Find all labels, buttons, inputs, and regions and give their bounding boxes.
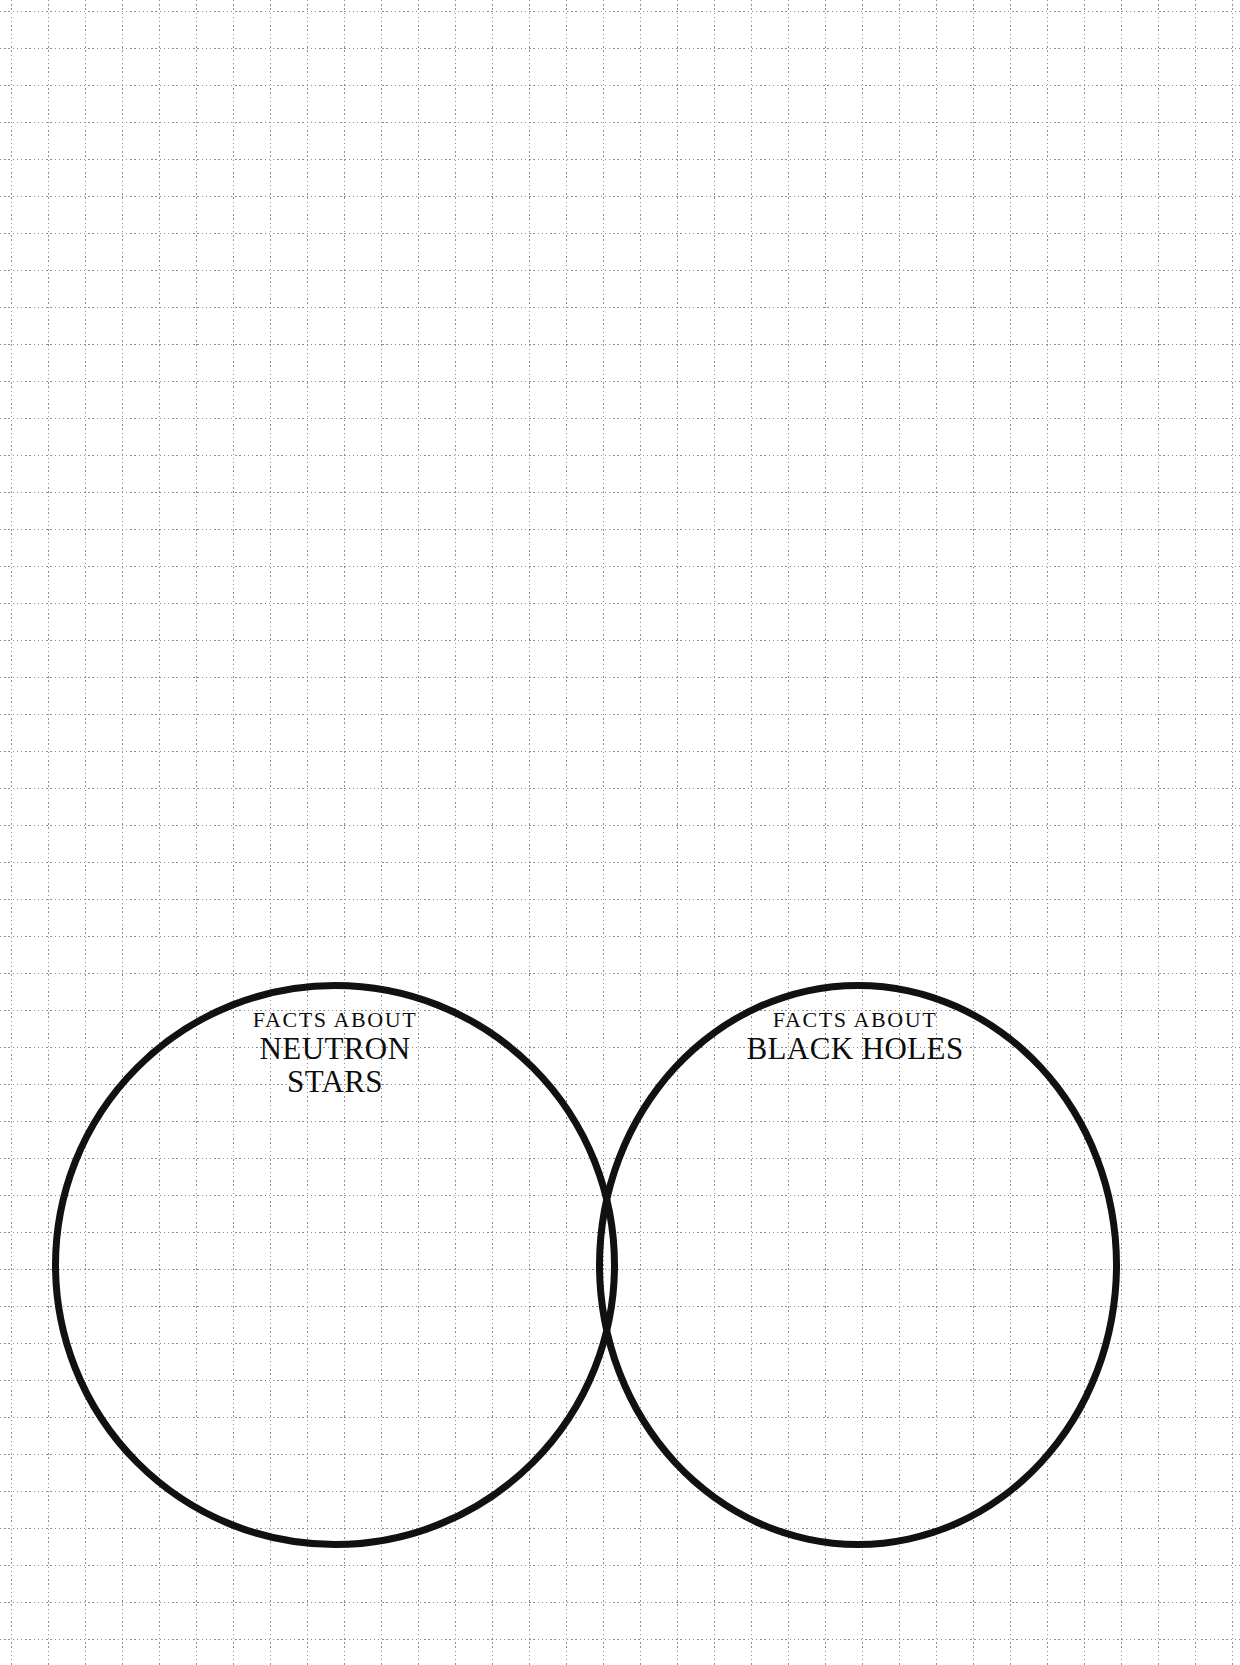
venn-label-right: FACTS ABOUT BLACK HOLES xyxy=(700,1008,1010,1066)
venn-label-left-line2: STARS xyxy=(175,1066,495,1099)
venn-label-right-kicker: FACTS ABOUT xyxy=(700,1008,1010,1031)
venn-diagram: FACTS ABOUT NEUTRON STARS FACTS ABOUT BL… xyxy=(0,0,1240,1665)
venn-label-right-line1: BLACK HOLES xyxy=(700,1033,1010,1066)
venn-circle-right[interactable] xyxy=(596,982,1120,1548)
worksheet-page: FACTS ABOUT NEUTRON STARS FACTS ABOUT BL… xyxy=(0,0,1240,1665)
venn-label-left-line1: NEUTRON xyxy=(175,1033,495,1066)
venn-label-left-kicker: FACTS ABOUT xyxy=(175,1008,495,1031)
venn-label-left: FACTS ABOUT NEUTRON STARS xyxy=(175,1008,495,1099)
